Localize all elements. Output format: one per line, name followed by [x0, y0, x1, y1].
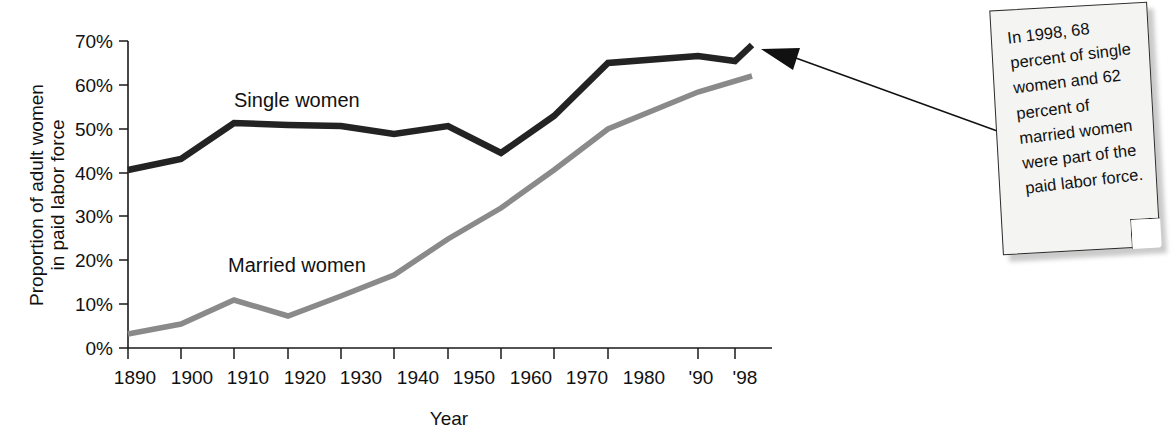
y-axis-title-line1: Proportion of adult women	[26, 84, 47, 306]
x-tick-label: 1980	[623, 367, 665, 388]
y-tick-label: 20%	[75, 250, 113, 271]
y-tick-label: 0%	[86, 338, 114, 359]
x-tick-label: '90	[689, 367, 714, 388]
x-axis-ticks: 1890 1900 1910 1920 1930 1940 1950 1960 …	[114, 348, 758, 388]
x-tick-label: 1970	[566, 367, 608, 388]
y-tick-label: 70%	[75, 31, 113, 52]
callout-leader-group	[761, 48, 1000, 132]
figure-root: 0% 10% 20% 30% 40% 50% 60% 70% 1890 1900…	[0, 0, 1174, 445]
y-tick-label: 10%	[75, 294, 113, 315]
x-tick-label: 1950	[453, 367, 495, 388]
x-tick-label: 1910	[227, 367, 269, 388]
series-label-married-women: Married women	[228, 254, 366, 276]
y-tick-label: 40%	[75, 163, 113, 184]
x-tick-label: 1900	[171, 367, 213, 388]
x-axis-title: Year	[430, 408, 469, 429]
x-tick-label: '98	[733, 367, 758, 388]
y-axis-title-line2: in paid labor force	[47, 119, 68, 270]
x-tick-label: 1920	[284, 367, 326, 388]
y-tick-label: 50%	[75, 119, 113, 140]
y-axis-ticks: 0% 10% 20% 30% 40% 50% 60% 70%	[75, 31, 128, 359]
x-tick-label: 1940	[397, 367, 439, 388]
series-line-married-women	[128, 76, 752, 334]
x-tick-label: 1960	[510, 367, 552, 388]
callout-note: In 1998, 68 percent of single women and …	[989, 2, 1160, 255]
x-tick-label: 1890	[114, 367, 156, 388]
callout-leader-line	[782, 53, 1000, 132]
series-label-single-women: Single women	[234, 89, 360, 111]
y-tick-label: 30%	[75, 206, 113, 227]
y-tick-label: 60%	[75, 75, 113, 96]
x-tick-label: 1930	[340, 367, 382, 388]
callout-note-text: In 1998, 68 percent of single women and …	[988, 0, 1174, 255]
callout-arrowhead-icon	[761, 48, 800, 70]
